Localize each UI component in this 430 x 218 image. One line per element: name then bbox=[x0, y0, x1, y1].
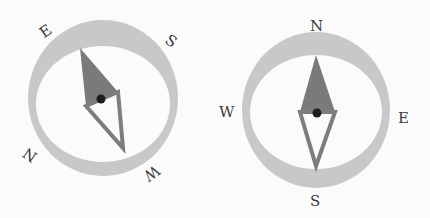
compass-left-face bbox=[36, 46, 170, 162]
compass-right-label-n: N bbox=[310, 17, 323, 35]
compass-left-pivot bbox=[97, 95, 106, 104]
compass-right-label-w: W bbox=[219, 103, 235, 121]
compass-drawing: E S N W N W E S bbox=[0, 0, 430, 218]
compass-right-label-e: E bbox=[398, 109, 409, 127]
compass-left-label-e: E bbox=[36, 21, 55, 42]
compass-illustration: E S N W N W E S bbox=[0, 0, 430, 218]
compass-right: N W E S bbox=[219, 17, 409, 210]
compass-left: E S N W bbox=[20, 20, 181, 185]
compass-right-pivot bbox=[313, 109, 322, 118]
compass-left-label-s: S bbox=[162, 31, 181, 52]
compass-left-label-n: N bbox=[20, 144, 41, 166]
compass-left-label-w: W bbox=[140, 161, 163, 185]
compass-right-label-s: S bbox=[310, 192, 320, 210]
